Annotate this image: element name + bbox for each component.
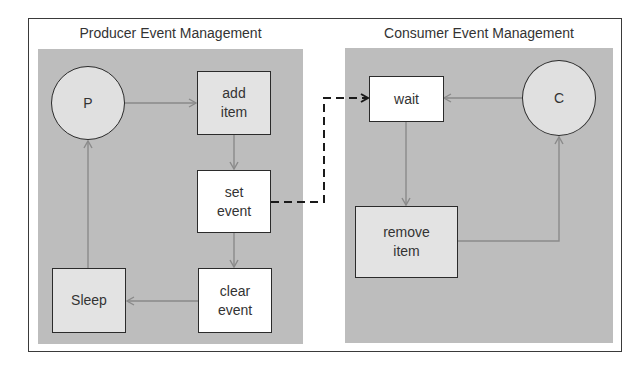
producer-title: Producer Event Management — [38, 25, 303, 41]
node-sleep-label: Sleep — [71, 291, 107, 310]
node-set-event-label: set event — [217, 183, 251, 221]
node-remove-item-label: remove item — [383, 223, 430, 261]
node-wait: wait — [369, 76, 444, 122]
node-remove-item: remove item — [355, 206, 458, 278]
node-c-label: C — [554, 89, 564, 108]
node-add-item-label: add item — [221, 84, 247, 122]
node-set-event: set event — [197, 170, 271, 233]
node-p: P — [51, 66, 125, 140]
node-clear-event-label: clear event — [218, 282, 252, 320]
node-add-item: add item — [197, 71, 271, 135]
node-wait-label: wait — [394, 90, 419, 109]
consumer-title: Consumer Event Management — [345, 25, 613, 41]
node-sleep: Sleep — [52, 268, 126, 333]
node-p-label: P — [83, 94, 92, 113]
node-c: C — [522, 60, 596, 136]
node-clear-event: clear event — [198, 268, 272, 333]
